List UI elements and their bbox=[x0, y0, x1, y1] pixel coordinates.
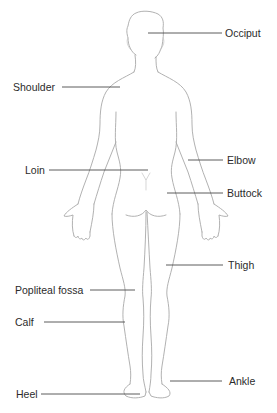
left-leg-outer bbox=[112, 214, 131, 384]
label-elbow: Elbow bbox=[227, 154, 256, 166]
label-loin: Loin bbox=[25, 164, 45, 176]
right-hand-outline bbox=[198, 204, 228, 240]
right-leg-outer bbox=[161, 214, 180, 384]
torso-right-outline bbox=[158, 72, 214, 204]
torso-left-outline bbox=[78, 72, 134, 204]
left-leg-inner bbox=[142, 212, 146, 392]
right-leg-inner bbox=[147, 212, 152, 392]
label-heel: Heel bbox=[16, 388, 38, 400]
label-ankle: Ankle bbox=[229, 375, 255, 387]
head-outline bbox=[127, 11, 164, 58]
label-popliteal-fossa: Popliteal fossa bbox=[15, 284, 83, 296]
label-shoulder: Shoulder bbox=[13, 81, 55, 93]
right-foot-outline bbox=[149, 384, 170, 398]
left-hand-outline bbox=[64, 204, 94, 240]
left-foot-outline bbox=[124, 384, 146, 398]
label-calf: Calf bbox=[15, 316, 34, 328]
human-figure-back-view bbox=[0, 0, 277, 413]
label-thigh: Thigh bbox=[228, 259, 254, 271]
label-buttock: Buttock bbox=[227, 187, 262, 199]
label-occiput: Occiput bbox=[225, 27, 261, 39]
neck-outline bbox=[134, 55, 136, 72]
body-diagram: Occiput Shoulder Elbow Loin Buttock Thig… bbox=[0, 0, 277, 413]
